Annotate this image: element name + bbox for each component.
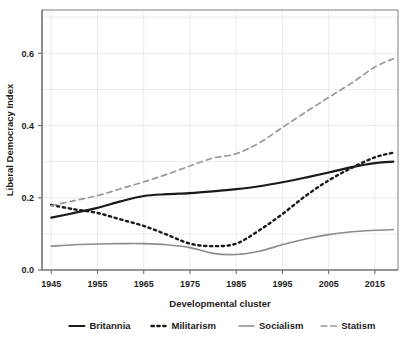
y-tick-label: 0.2: [21, 193, 34, 203]
x-tick-label: 1975: [180, 279, 200, 289]
y-tick-label: 0.4: [21, 121, 34, 131]
axis-ticks: [38, 10, 398, 274]
y-tick-label: 0.6: [21, 49, 34, 59]
x-tick-label: 1955: [87, 279, 107, 289]
plot-frame: [42, 10, 398, 270]
x-tick-label: 1945: [41, 279, 61, 289]
data-series-layer: [51, 59, 393, 255]
grid-layer: [42, 10, 398, 270]
line-chart-canvas: 0.00.20.40.61945195519651975198519952005…: [0, 0, 408, 341]
legend-label-statism: Statism: [341, 320, 375, 331]
series-line-britannia: [51, 162, 393, 218]
chart-figure: 0.00.20.40.61945195519651975198519952005…: [0, 0, 408, 341]
legend-label-militarism: Militarism: [172, 320, 216, 331]
x-axis-title: Developmental cluster: [169, 298, 271, 309]
x-tick-label: 1965: [134, 279, 154, 289]
series-line-statism: [51, 59, 393, 206]
chart-legend: BritanniaMilitarismSocialismStatism: [69, 320, 375, 331]
series-line-socialism: [51, 230, 393, 255]
x-tick-label: 1995: [272, 279, 292, 289]
y-tick-label: 0.0: [21, 265, 34, 275]
plot-frame-rect: [42, 10, 398, 270]
x-tick-label: 2005: [319, 279, 339, 289]
x-tick-label: 1985: [226, 279, 246, 289]
legend-label-britannia: Britannia: [89, 320, 131, 331]
x-tick-label: 2015: [365, 279, 385, 289]
legend-label-socialism: Socialism: [259, 320, 303, 331]
y-axis-title: Liberal Democracy Index: [4, 83, 15, 196]
